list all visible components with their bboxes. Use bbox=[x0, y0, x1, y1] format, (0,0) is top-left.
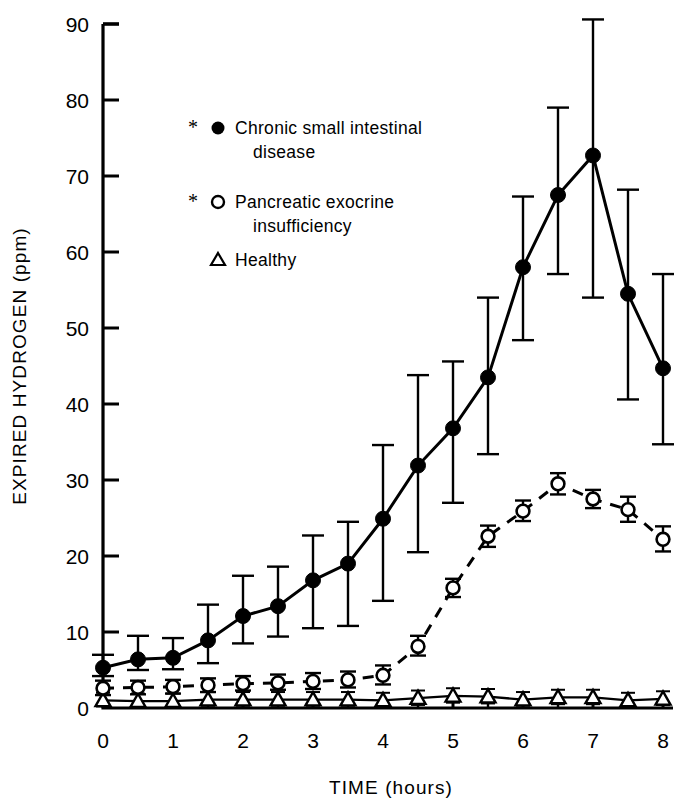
data-point-open-circle bbox=[517, 505, 530, 518]
data-point-open-circle bbox=[482, 530, 495, 543]
data-point-filled-circle bbox=[131, 652, 146, 667]
y-tick-label-80: 80 bbox=[66, 89, 89, 112]
x-axis-title: TIME (hours) bbox=[329, 777, 453, 798]
data-point-filled-circle bbox=[656, 361, 671, 376]
data-point-open-circle bbox=[167, 680, 180, 693]
data-point-open-circle bbox=[97, 682, 110, 695]
y-tick-label-0: 0 bbox=[77, 697, 89, 720]
legend-layer: *Chronic small intestinaldisease*Pancrea… bbox=[188, 116, 422, 270]
x-tick-label-0: 0 bbox=[97, 729, 109, 752]
data-point-filled-circle bbox=[516, 260, 531, 275]
y-tick-label-30: 30 bbox=[66, 469, 89, 492]
data-point-filled-circle bbox=[306, 573, 321, 588]
y-tick-label-20: 20 bbox=[66, 545, 89, 568]
data-point-filled-circle bbox=[271, 599, 286, 614]
hydrogen-breath-test-chart: 0102030405060708090012345678 *Chronic sm… bbox=[0, 0, 683, 798]
data-point-open-circle bbox=[272, 677, 285, 690]
data-point-filled-circle bbox=[586, 148, 601, 163]
x-tick-label-8: 8 bbox=[657, 729, 669, 752]
data-point-open-circle bbox=[552, 477, 565, 490]
data-point-open-circle bbox=[307, 675, 320, 688]
x-tick-label-4: 4 bbox=[377, 729, 389, 752]
x-tick-label-2: 2 bbox=[237, 729, 249, 752]
legend-label-line2: disease bbox=[253, 142, 315, 162]
data-point-open-circle bbox=[202, 679, 215, 692]
data-point-open-circle bbox=[447, 582, 460, 595]
y-tick-label-10: 10 bbox=[66, 621, 89, 644]
x-tick-label-3: 3 bbox=[307, 729, 319, 752]
data-point-filled-circle bbox=[166, 650, 181, 665]
data-point-open-circle bbox=[377, 669, 390, 682]
legend-label-line1: Chronic small intestinal bbox=[235, 118, 422, 138]
legend-item-2: Healthy bbox=[211, 250, 296, 270]
x-tick-label-6: 6 bbox=[517, 729, 529, 752]
data-point-open-circle bbox=[622, 503, 635, 516]
legend-item-1: *Pancreatic exocrineinsufficiency bbox=[188, 190, 394, 236]
series-open-triangle bbox=[96, 688, 671, 707]
data-point-filled-circle bbox=[551, 188, 566, 203]
significance-star: * bbox=[188, 190, 198, 212]
data-point-filled-circle bbox=[96, 660, 111, 675]
data-point-filled-circle bbox=[236, 609, 251, 624]
figure-container: 0102030405060708090012345678 *Chronic sm… bbox=[0, 0, 683, 798]
significance-star: * bbox=[188, 116, 198, 138]
legend-marker-open-triangle bbox=[211, 253, 225, 265]
data-point-filled-circle bbox=[376, 511, 391, 526]
x-tick-label-7: 7 bbox=[587, 729, 599, 752]
data-point-filled-circle bbox=[621, 286, 636, 301]
data-point-open-circle bbox=[657, 533, 670, 546]
y-tick-label-90: 90 bbox=[66, 13, 89, 36]
legend-marker-filled-circle bbox=[212, 122, 225, 135]
data-point-filled-circle bbox=[341, 556, 356, 571]
data-point-open-circle bbox=[412, 640, 425, 653]
y-tick-label-40: 40 bbox=[66, 393, 89, 416]
data-point-open-circle bbox=[237, 677, 250, 690]
x-tick-label-1: 1 bbox=[167, 729, 179, 752]
y-axis-title: EXPIRED HYDROGEN (ppm) bbox=[9, 227, 30, 505]
data-point-filled-circle bbox=[446, 421, 461, 436]
legend-marker-open-circle bbox=[212, 196, 224, 208]
data-point-open-circle bbox=[587, 493, 600, 506]
y-tick-label-70: 70 bbox=[66, 165, 89, 188]
data-point-filled-circle bbox=[481, 370, 496, 385]
data-point-open-circle bbox=[132, 681, 145, 694]
legend-label-line1: Healthy bbox=[235, 250, 296, 270]
data-point-filled-circle bbox=[411, 458, 426, 473]
legend-label-line2: insufficiency bbox=[253, 216, 352, 236]
legend-item-0: *Chronic small intestinaldisease bbox=[188, 116, 422, 162]
data-point-open-circle bbox=[342, 673, 355, 686]
y-tick-label-50: 50 bbox=[66, 317, 89, 340]
legend-label-line1: Pancreatic exocrine bbox=[235, 192, 394, 212]
data-point-filled-circle bbox=[201, 633, 216, 648]
x-tick-label-5: 5 bbox=[447, 729, 459, 752]
y-tick-label-60: 60 bbox=[66, 241, 89, 264]
